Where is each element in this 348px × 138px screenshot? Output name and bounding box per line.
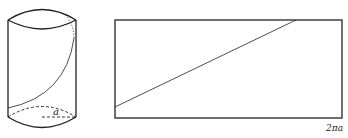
figure: a 2πa [0,0,348,138]
cylinder-top-upper-arc [8,10,76,21]
cylinder [8,10,76,128]
unrolled-rectangle [115,20,342,118]
radius-label: a [53,106,59,117]
rectangle-outline [115,20,342,118]
cylinder-bottom-front-arc [8,117,76,128]
cylinder-top-lower-arc [8,20,76,29]
width-label: 2πa [325,123,343,133]
cylinder-bottom-back-arc [8,107,76,118]
helix-curve [8,38,74,108]
diagonal-line [115,20,296,107]
